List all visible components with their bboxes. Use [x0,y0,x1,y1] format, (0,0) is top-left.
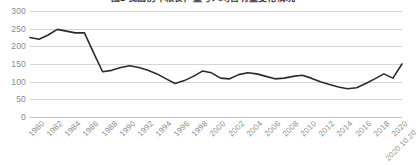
x-axis-tick-label: 1998 [190,119,210,139]
x-axis-tick-label: 2012 [317,119,337,139]
x-axis-tick-label: 2008 [281,119,301,139]
x-axis-tick-label: 1990 [118,119,138,139]
y-axis-tick-label: 100 [11,77,26,87]
y-axis-tick-label: 150 [11,59,26,69]
chart-title: 图1 我国历年粮食产量与人均占有量变化情况 [0,0,406,4]
x-axis-tick-label: 2002 [226,119,246,139]
y-axis-tick-label: 250 [11,24,26,34]
y-axis-tick-label: 300 [11,6,26,16]
x-axis-tick-label: 2014 [335,119,355,139]
x-axis-tick-label: 1992 [136,119,156,139]
x-axis-tick-label: 1982 [45,119,65,139]
y-axis-tick-label: 200 [11,41,26,51]
plot-area [30,11,402,117]
axis-baseline [30,117,402,118]
x-axis-tick-label: 2006 [263,119,283,139]
x-axis-tick-label: 2016 [353,119,373,139]
y-axis-tick-label: 0 [21,112,26,122]
x-axis-labels: 1980198219841986198819901992199419961998… [30,119,402,165]
x-axis-tick-label: 1986 [81,119,101,139]
x-axis-tick-label: 1980 [27,119,47,139]
x-axis-tick-label: 2010 [299,119,319,139]
x-axis-tick-label: 2000 [208,119,228,139]
x-axis-tick-label: 1994 [154,119,174,139]
y-axis-tick-label: 50 [16,94,26,104]
x-axis-tick-label: 1984 [63,119,83,139]
x-axis-tick-label: 1988 [99,119,119,139]
x-axis-tick-label: 2004 [245,119,265,139]
data-series-line [30,11,402,117]
x-axis-tick-label: 1996 [172,119,192,139]
y-axis-labels: 300 250 200 150 100 50 0 [0,11,26,117]
x-axis-tick-label: 2018 [372,119,392,139]
